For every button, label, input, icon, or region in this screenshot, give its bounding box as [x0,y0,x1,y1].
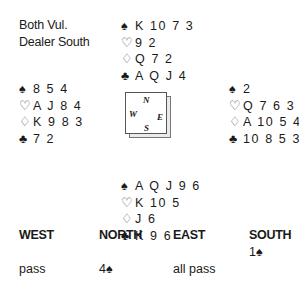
diamond-icon: ♢ [229,114,243,131]
hand-west: ♠8 5 4 ♡A J 8 4 ♢K 9 8 3 ♣7 2 [19,81,84,147]
compass-table: N W E S [125,92,167,134]
north-diamonds: Q 7 2 [135,52,174,66]
deal-info: Both Vul. Dealer South [19,17,90,51]
east-hearts: Q 7 6 3 [243,99,295,113]
west-clubs: 7 2 [33,132,55,146]
north-hearts: 9 2 [135,36,157,50]
bid-west-1: pass [19,262,45,276]
diamond-icon: ♢ [121,211,135,228]
west-diamonds: K 9 8 3 [33,115,84,129]
spade-icon: ♠ [121,18,135,35]
bid-south-1: 1♠ [249,245,263,259]
hand-east: ♠2 ♡Q 7 6 3 ♢A 10 5 4 ♣10 8 5 3 [229,81,299,147]
west-spades: 8 5 4 [33,82,69,96]
spade-icon: ♠ [121,178,135,195]
heart-icon: ♡ [121,35,135,52]
compass-south: S [144,123,149,133]
compass-north: N [143,95,150,105]
diamond-icon: ♢ [121,51,135,68]
dealer: Dealer South [19,34,90,51]
spade-icon: ♠ [19,81,33,98]
compass-east: E [157,112,163,122]
east-spades: 2 [243,82,252,96]
vulnerability: Both Vul. [19,17,90,34]
bid-header-east: EAST [173,228,205,242]
north-clubs: A Q J 4 [135,69,187,83]
bid-north-1: 4♠ [99,262,113,276]
bid-east-1: all pass [173,262,215,276]
compass-west: W [129,109,137,119]
heart-icon: ♡ [229,98,243,115]
club-icon: ♣ [229,131,243,148]
south-diamonds: J 6 [135,212,156,226]
west-hearts: A J 8 4 [33,99,82,113]
east-clubs: 10 8 5 3 [243,132,299,146]
heart-icon: ♡ [19,98,33,115]
club-icon: ♣ [121,68,135,85]
bid-header-south: SOUTH [249,228,291,242]
hand-north: ♠K 10 7 3 ♡9 2 ♢Q 7 2 ♣A Q J 4 [121,18,194,84]
club-icon: ♣ [19,131,33,148]
heart-icon: ♡ [121,195,135,212]
spade-icon: ♠ [229,81,243,98]
south-spades: A Q J 9 6 [135,179,201,193]
diamond-icon: ♢ [19,114,33,131]
bid-header-north: NORTH [99,228,142,242]
bid-header-west: WEST [19,228,54,242]
north-spades: K 10 7 3 [135,19,194,33]
south-hearts: K 10 5 [135,196,181,210]
east-diamonds: A 10 5 4 [243,115,299,129]
